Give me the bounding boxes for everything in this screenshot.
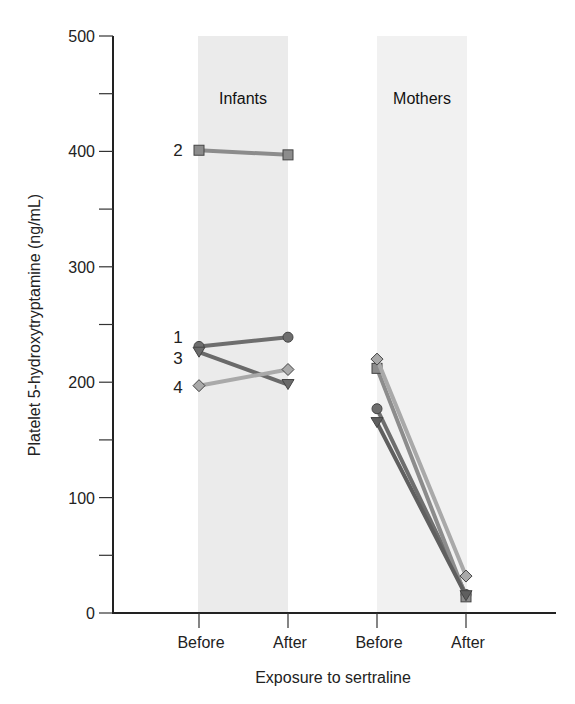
infants-label: Infants xyxy=(219,90,267,107)
square-marker-icon xyxy=(194,145,204,155)
x-axis-title: Exposure to sertraline xyxy=(255,669,411,686)
mothers-band xyxy=(377,36,467,613)
chart: 0100200300400500 BeforeAfterBeforeAfter … xyxy=(0,0,575,704)
mothers-label: Mothers xyxy=(393,90,451,107)
y-tick-label: 100 xyxy=(68,490,95,507)
x-tick-label: Before xyxy=(355,634,402,651)
infants-band xyxy=(198,36,288,613)
x-tick-label: Before xyxy=(177,634,224,651)
circle-marker-icon xyxy=(283,332,293,342)
y-axis-title: Platelet 5-hydroxytryptamine (ng/mL) xyxy=(26,194,43,456)
x-axis: BeforeAfterBeforeAfter xyxy=(112,613,556,651)
y-tick-label: 400 xyxy=(68,143,95,160)
y-tick-label: 200 xyxy=(68,374,95,391)
y-tick-label: 500 xyxy=(68,28,95,45)
x-tick-label: After xyxy=(273,634,307,651)
y-tick-label: 0 xyxy=(86,605,95,622)
infant-label-2: 2 xyxy=(173,141,182,160)
infant-label-1: 1 xyxy=(173,328,182,347)
y-axis: 0100200300400500 xyxy=(68,28,113,622)
square-marker-icon xyxy=(283,150,293,160)
x-tick-label: After xyxy=(451,634,485,651)
circle-marker-icon xyxy=(372,404,382,414)
y-tick-label: 300 xyxy=(68,259,95,276)
infant-label-4: 4 xyxy=(173,378,182,397)
infant-label-3: 3 xyxy=(173,349,182,368)
